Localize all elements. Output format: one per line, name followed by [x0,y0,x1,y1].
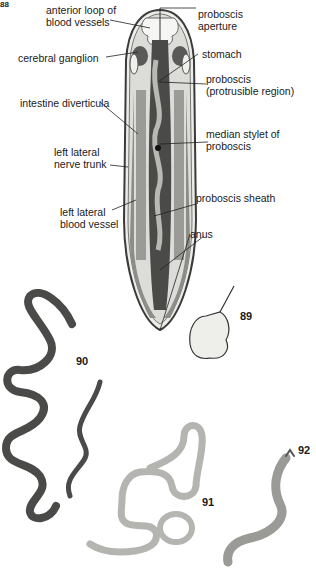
label-anus: anus [190,228,213,240]
specimen-92-illustration [228,450,294,562]
label-proboscis-aperture: proboscis aperture [198,8,243,32]
specimen-number-89: 89 [240,310,252,322]
specimen-91-illustration [90,425,202,552]
label-median-stylet: median stylet of proboscis [206,128,280,152]
ribbon-worm-diagram [124,8,196,330]
specimen-number-92: 92 [298,444,310,456]
specimen-number-90: 90 [76,355,88,367]
label-proboscis-sheath: proboscis sheath [196,192,275,204]
label-proboscis-protrusible: proboscis (protrusible region) [206,73,294,97]
label-left-lateral-nerve-trunk: left lateral nerve trunk [54,146,107,170]
specimen-89-illustration [190,286,234,358]
label-anterior-loop: anterior loop of blood vessels [46,4,116,28]
label-left-lateral-blood-vessel: left lateral blood vessel [60,206,118,230]
specimen-90-illustration [6,293,100,518]
label-cerebral-ganglion: cerebral ganglion [18,52,99,64]
specimen-number-91: 91 [202,496,214,508]
label-intestine-diverticula: intestine diverticula [20,97,109,109]
label-stomach: stomach [202,48,242,60]
